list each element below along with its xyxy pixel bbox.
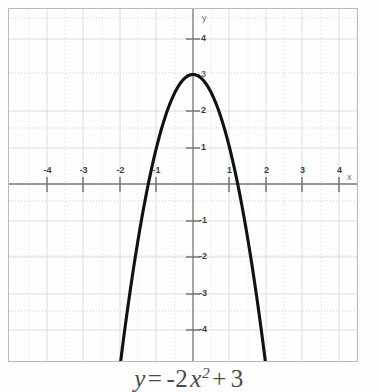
x-tick-label: 2	[260, 165, 273, 175]
y-tick-label: -1	[199, 215, 207, 225]
y-tick-label: -4	[199, 324, 207, 334]
x-tick-label: 3	[296, 165, 309, 175]
y-tick-label: 4	[201, 33, 206, 43]
y-axis-label: y	[202, 13, 207, 23]
y-tick-label: 1	[201, 142, 206, 152]
y-tick-label: -3	[199, 288, 207, 298]
equation-caption-text: y=-2x2+3	[134, 366, 246, 392]
x-tick-label: -2	[112, 165, 129, 175]
y-tick-label: -2	[199, 251, 207, 261]
caption-equals: =	[146, 366, 165, 392]
y-tick-label: 2	[201, 105, 206, 115]
x-axis-label: x	[347, 172, 352, 182]
caption-constant: 3	[229, 366, 246, 392]
coordinate-plane-svg	[9, 9, 357, 361]
caption-variable: x	[190, 366, 202, 392]
x-tick-label: 1	[223, 165, 236, 175]
x-tick-label: -3	[75, 165, 92, 175]
plot-area: -4 -3 -2 -1 1 2 3 4 4 3 2 1 -1 -2 -3 -4 …	[8, 8, 358, 362]
axis-lines	[9, 9, 357, 361]
x-tick-label: 4	[333, 165, 346, 175]
y-tick-label: 3	[201, 69, 206, 79]
x-tick-label: -1	[148, 165, 165, 175]
caption-plus: +	[210, 366, 229, 392]
x-tick-label: -4	[39, 165, 56, 175]
caption-lhs: y	[134, 366, 146, 392]
equation-caption: y=-2x2+3	[0, 366, 380, 392]
caption-coefficient: -2	[164, 366, 190, 392]
caption-exponent: 2	[202, 366, 210, 381]
graph-figure: -4 -3 -2 -1 1 2 3 4 4 3 2 1 -1 -2 -3 -4 …	[0, 0, 380, 392]
